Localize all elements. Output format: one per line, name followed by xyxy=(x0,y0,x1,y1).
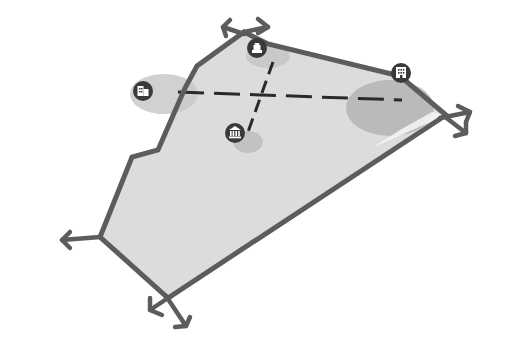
site-diagram xyxy=(0,0,512,359)
building-west-marker[interactable] xyxy=(133,81,153,101)
arrow-top-left-icon xyxy=(223,20,244,36)
diagram-canvas xyxy=(0,0,512,359)
museum-marker[interactable] xyxy=(225,123,245,143)
arrow-left-icon xyxy=(62,232,100,248)
building-east-marker[interactable] xyxy=(391,63,411,83)
arrow-bottom-left-icon xyxy=(150,298,168,315)
arrow-bottom-right-icon xyxy=(166,296,190,327)
arrow-top-right-icon xyxy=(244,19,268,33)
arrow-right-lower-icon xyxy=(444,116,466,136)
office-building-icon xyxy=(396,67,406,78)
lighthouse-marker[interactable] xyxy=(247,38,267,58)
zone-east xyxy=(346,80,434,136)
